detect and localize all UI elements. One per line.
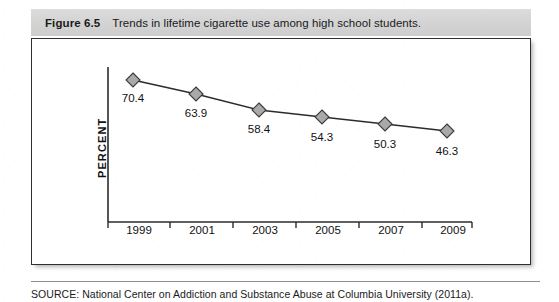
x-tick-label-1999: 1999 xyxy=(115,224,163,236)
x-tick-label-2007: 2007 xyxy=(367,224,415,236)
data-label-2005: 54.3 xyxy=(300,131,344,143)
data-label-1999: 70.4 xyxy=(111,92,155,104)
x-tick-label-2003: 2003 xyxy=(241,224,289,236)
figure-number: Figure 6.5 xyxy=(45,17,100,29)
x-tick-label-2001: 2001 xyxy=(178,224,226,236)
y-axis-title: PERCENT xyxy=(96,118,108,178)
x-tick-label-2005: 2005 xyxy=(304,224,352,236)
figure-caption-bar: Figure 6.5 Trends in lifetime cigarette … xyxy=(31,9,531,36)
x-tick-label-2009: 2009 xyxy=(429,224,477,236)
source-divider xyxy=(31,281,540,282)
figure-title: Trends in lifetime cigarette use among h… xyxy=(112,17,421,29)
data-label-2003: 58.4 xyxy=(237,123,281,135)
source-note: SOURCE: National Center on Addiction and… xyxy=(31,288,474,300)
data-label-2009: 46.3 xyxy=(425,145,469,157)
data-label-2001: 63.9 xyxy=(174,107,218,119)
data-label-2007: 50.3 xyxy=(363,138,407,150)
